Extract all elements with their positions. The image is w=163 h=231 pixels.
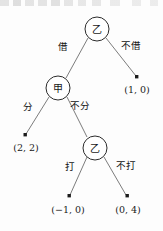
terminal-node-neg1-0: (−1, 0) bbox=[51, 194, 85, 215]
payoff-label-1-0: (1, 0) bbox=[124, 84, 150, 95]
terminal-node-1-0: (1, 0) bbox=[124, 75, 150, 95]
node-label-yi-second: 乙 bbox=[90, 143, 100, 154]
payoff-label-0-4: (0, 4) bbox=[115, 204, 141, 215]
terminal-node-0-4: (0, 4) bbox=[115, 194, 141, 215]
decision-node-yi-second[interactable]: 乙 bbox=[83, 136, 107, 160]
terminal-dot-1-0 bbox=[135, 75, 138, 78]
edge-label-not-borrow: 不借 bbox=[121, 40, 141, 51]
edge-label-not-share: 不分 bbox=[70, 100, 90, 111]
terminal-node-2-2: (2, 2) bbox=[13, 133, 39, 153]
edge-label-share: 分 bbox=[23, 101, 33, 112]
decision-node-jia[interactable]: 甲 bbox=[46, 76, 70, 100]
edge-group bbox=[26, 38, 136, 195]
edge-label-fight: 打 bbox=[65, 161, 75, 172]
edge-root-to-jia bbox=[66, 38, 88, 78]
decision-tree-canvas: 乙 甲 乙 借 不借 分 不分 打 不打 (1, 0) (2, 2) (−1, … bbox=[0, 0, 163, 231]
payoff-label-neg1-0: (−1, 0) bbox=[51, 204, 85, 215]
decision-node-root[interactable]: 乙 bbox=[85, 17, 109, 41]
node-label-jia: 甲 bbox=[53, 83, 63, 94]
terminal-dot-0-4 bbox=[126, 194, 129, 197]
game-tree-figure: 乙 甲 乙 借 不借 分 不分 打 不打 (1, 0) (2, 2) (−1, … bbox=[0, 0, 163, 231]
terminal-dot-neg1-0 bbox=[68, 194, 71, 197]
node-label-root: 乙 bbox=[92, 24, 102, 35]
payoff-label-2-2: (2, 2) bbox=[13, 142, 39, 153]
edge-label-not-fight: 不打 bbox=[116, 160, 136, 171]
edge-label-borrow: 借 bbox=[58, 41, 68, 52]
terminal-dot-2-2 bbox=[24, 133, 27, 136]
